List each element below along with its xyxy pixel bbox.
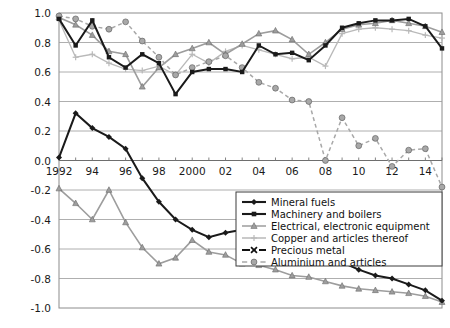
data-point-marker — [57, 17, 61, 21]
line-chart: 1.00.80.60.40.20.0-0.2-0.4-0.6-0.8-1.019… — [0, 0, 450, 328]
data-point-marker — [251, 259, 257, 265]
y-axis-tick-label: -0.8 — [31, 273, 52, 285]
data-point-marker — [206, 234, 212, 240]
legend-item-label: Copper and articles thereof — [271, 233, 409, 244]
data-point-marker — [406, 28, 412, 34]
data-point-marker — [106, 187, 112, 193]
data-point-marker — [389, 163, 395, 169]
x-axis-tick-label: 2000 — [179, 165, 206, 177]
data-point-marker — [289, 56, 295, 62]
y-axis-tick-label: 1.0 — [34, 7, 51, 19]
x-axis-tick-label: 98 — [152, 165, 165, 177]
data-point-marker — [273, 85, 279, 91]
y-axis-tick-label: -0.4 — [31, 214, 52, 226]
data-point-marker — [89, 51, 95, 57]
data-point-marker — [340, 26, 344, 30]
data-point-marker — [440, 46, 444, 50]
data-point-marker — [223, 230, 229, 236]
x-axis-tick-label: 04 — [252, 165, 266, 177]
y-axis-tick-label: 0.6 — [34, 66, 51, 78]
x-axis-tick-label: 02 — [219, 165, 232, 177]
x-axis-tick-label: 10 — [352, 165, 365, 177]
data-point-marker — [389, 276, 395, 282]
data-point-marker — [106, 26, 112, 32]
data-point-marker — [156, 54, 162, 60]
series-line — [59, 19, 442, 94]
data-point-marker — [56, 185, 62, 191]
data-point-marker — [139, 38, 145, 44]
x-axis-tick-label: 94 — [86, 165, 100, 177]
data-point-marker — [339, 115, 345, 121]
data-point-marker — [390, 18, 394, 22]
data-point-marker — [257, 43, 261, 47]
data-point-marker — [123, 19, 129, 25]
data-point-marker — [206, 39, 212, 45]
y-axis-tick-label: -1.0 — [31, 302, 52, 314]
data-point-marker — [189, 65, 195, 71]
series-line — [59, 20, 442, 75]
data-point-marker — [373, 18, 377, 22]
data-point-marker — [223, 53, 229, 59]
data-point-marker — [140, 52, 144, 56]
y-axis-tick-label: 0.4 — [34, 96, 51, 108]
x-axis-tick-label: 06 — [285, 165, 299, 177]
chart-legend: Mineral fuelsMachinery and boilersElectr… — [236, 192, 442, 268]
data-point-marker — [439, 35, 445, 41]
data-point-marker — [356, 267, 362, 273]
data-point-marker — [206, 59, 212, 65]
x-axis-tick-label: 08 — [319, 165, 332, 177]
data-point-marker — [439, 184, 445, 190]
data-point-marker — [106, 60, 112, 66]
data-point-marker — [422, 146, 428, 152]
data-point-marker — [107, 55, 111, 59]
data-point-marker — [322, 158, 328, 164]
data-point-marker — [157, 61, 161, 65]
data-point-marker — [256, 79, 262, 85]
chart-container: 1.00.80.60.40.20.0-0.2-0.4-0.6-0.8-1.019… — [0, 0, 450, 328]
data-point-marker — [389, 26, 395, 32]
data-point-marker — [290, 51, 294, 55]
data-point-marker — [322, 63, 328, 69]
legend-item-label: Precious metal — [271, 245, 345, 256]
x-axis-tick-label: 96 — [119, 165, 133, 177]
data-point-marker — [323, 43, 327, 47]
data-point-marker — [190, 70, 194, 74]
data-point-marker — [406, 147, 412, 153]
data-point-marker — [90, 18, 94, 22]
data-point-marker — [73, 43, 77, 47]
data-point-marker — [223, 67, 227, 71]
data-point-marker — [56, 155, 62, 161]
data-point-marker — [307, 58, 311, 62]
legend-item[interactable]: Electrical, electronic equipment — [242, 221, 430, 232]
data-point-marker — [173, 92, 177, 96]
y-axis-tick-label: -0.6 — [31, 243, 52, 255]
data-point-marker — [123, 65, 127, 69]
data-point-marker — [207, 67, 211, 71]
data-point-marker — [73, 16, 79, 22]
data-point-marker — [139, 68, 145, 74]
data-point-marker — [422, 32, 428, 38]
data-point-marker — [273, 52, 277, 56]
y-axis-tick-label: -0.2 — [31, 184, 52, 196]
x-axis-tick-label: 1992 — [46, 165, 73, 177]
data-point-marker — [289, 97, 295, 103]
series-electrical-electronic-equipment — [56, 14, 445, 89]
data-point-marker — [406, 17, 410, 21]
data-point-marker — [423, 24, 427, 28]
data-point-marker — [372, 273, 378, 279]
legend-item-label: Mineral fuels — [271, 197, 335, 208]
data-point-marker — [252, 212, 257, 217]
data-point-marker — [306, 99, 312, 105]
series-line — [59, 17, 442, 86]
data-point-marker — [272, 27, 278, 33]
legend-item-label: Electrical, electronic equipment — [271, 221, 430, 232]
data-point-marker — [73, 54, 79, 60]
data-point-marker — [372, 135, 378, 141]
data-point-marker — [240, 70, 244, 74]
data-point-marker — [406, 281, 412, 287]
data-point-marker — [173, 72, 179, 78]
data-point-marker — [357, 21, 361, 25]
x-axis-tick-label: 14 — [419, 165, 433, 177]
data-point-marker — [189, 237, 195, 243]
y-axis-tick-label: 0.8 — [34, 37, 51, 49]
